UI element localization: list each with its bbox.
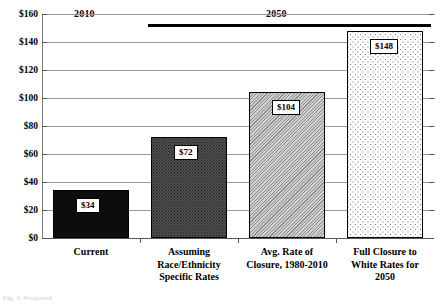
bar-value-label: $104 <box>272 100 300 115</box>
y-axis-tick-label: $160 <box>0 9 38 19</box>
bar <box>347 31 423 238</box>
y-axis-tick-mark <box>42 14 47 15</box>
x-axis-category-label: Assuming Race/Ethnicity Specific Rates <box>140 246 238 284</box>
y-axis-tick-label: $40 <box>0 177 38 187</box>
y-axis: $0$20$40$60$80$100$120$140$160 <box>0 0 38 304</box>
y-axis-tick-label: $0 <box>0 233 38 243</box>
y-axis-tick-mark-right <box>429 126 434 127</box>
x-axis-tick-mark <box>238 238 239 243</box>
y-axis-tick-mark-right <box>429 70 434 71</box>
x-axis-category-label: Full Closure to White Rates for 2050 <box>336 246 434 284</box>
caption-sliver: Fig. 3. Projected <box>3 294 52 303</box>
bar-value-label: $34 <box>76 198 100 213</box>
y-axis-tick-label: $120 <box>0 65 38 75</box>
y-axis-tick-mark <box>42 70 47 71</box>
y-axis-tick-label: $60 <box>0 149 38 159</box>
y-axis-tick-mark-right <box>429 98 434 99</box>
y-axis-tick-label: $20 <box>0 205 38 215</box>
x-axis-tick-mark <box>140 238 141 243</box>
y-axis-tick-label: $100 <box>0 93 38 103</box>
y-axis-tick-mark-right <box>429 42 434 43</box>
y-axis-tick-mark <box>42 182 47 183</box>
y-axis-tick-mark <box>42 42 47 43</box>
y-axis-tick-mark-right <box>429 14 434 15</box>
y-axis-tick-mark-right <box>429 182 434 183</box>
y-axis-tick-mark <box>42 126 47 127</box>
x-axis-tick-mark <box>336 238 337 243</box>
x-axis-category-label: Current <box>42 246 140 259</box>
y-axis-tick-mark <box>42 154 47 155</box>
bar-chart: 2010 2050 $0$20$40$60$80$100$120$140$160… <box>0 0 444 304</box>
y-axis-tick-mark <box>42 98 47 99</box>
y-axis-tick-label: $80 <box>0 121 38 131</box>
y-axis-tick-mark <box>42 210 47 211</box>
bar-value-label: $72 <box>174 145 198 160</box>
x-axis-category-label: Avg. Rate of Closure, 1980-2010 <box>238 246 336 271</box>
y-axis-tick-mark-right <box>429 210 434 211</box>
gridline <box>43 14 435 15</box>
bar-value-label: $148 <box>370 39 398 54</box>
y-axis-tick-label: $140 <box>0 37 38 47</box>
y-axis-tick-mark-right <box>429 154 434 155</box>
y-axis-tick-mark <box>42 238 47 239</box>
